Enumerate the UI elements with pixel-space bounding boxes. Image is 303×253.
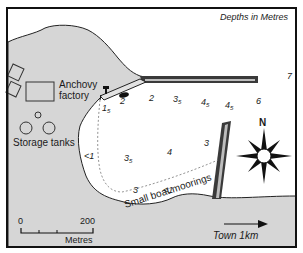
depth-decimal: 5: [206, 102, 209, 108]
depth-value: <1: [163, 185, 173, 195]
depth-sounding: 7: [287, 72, 292, 81]
depth-sounding: 15: [102, 104, 110, 114]
map-canvas: [0, 0, 303, 253]
map-title: Depths in Metres: [220, 13, 288, 22]
depth-value: 2: [120, 96, 125, 106]
depth-sounding: <1: [163, 186, 173, 195]
depth-value: 4: [167, 147, 172, 157]
depth-value: 7: [287, 71, 292, 81]
depth-sounding: 2: [149, 94, 154, 103]
compass-north-label: N: [259, 118, 266, 128]
depth-sounding: 3: [204, 139, 209, 148]
depth-value: 3: [133, 185, 138, 195]
compass-rose: [236, 128, 292, 184]
scale-unit-label: Metres: [65, 236, 93, 245]
depth-sounding: <1: [84, 152, 94, 161]
depth-decimal: 5: [129, 158, 132, 164]
depth-decimal: 5: [178, 99, 181, 105]
depth-sounding: 35: [173, 95, 181, 105]
depth-value: <1: [84, 151, 94, 161]
depth-value: 3: [204, 138, 209, 148]
storage-tanks-label: Storage tanks: [13, 138, 75, 148]
depth-sounding: 4: [167, 148, 172, 157]
depth-value: 2: [149, 93, 154, 103]
town-label: Town 1km: [213, 231, 258, 241]
scale-end-label: 200: [80, 217, 95, 226]
harbour-map: Depths in Metres Anchovy factory Storage…: [0, 0, 303, 253]
depth-decimal: 5: [107, 108, 110, 114]
pier-east: [212, 121, 231, 199]
depth-sounding: 2: [120, 97, 125, 106]
scale-start-label: 0: [18, 217, 23, 226]
depth-value: 6: [256, 96, 261, 106]
factory-label-line1: Anchovy: [59, 80, 97, 90]
factory-label-line2: factory: [59, 91, 89, 101]
depth-decimal: 5: [230, 105, 233, 111]
depth-sounding: 45: [225, 101, 233, 111]
depth-sounding: 3: [133, 186, 138, 195]
depth-sounding: 6: [256, 97, 261, 106]
depth-sounding: 35: [124, 154, 132, 164]
depth-sounding: 45: [201, 98, 209, 108]
